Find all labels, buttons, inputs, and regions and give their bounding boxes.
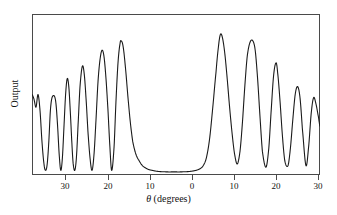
x-tick-label: 20: [264, 181, 288, 191]
x-tick-label: 30: [53, 181, 77, 191]
x-tick-label: 30: [306, 181, 330, 191]
x-tick-mark: [318, 175, 319, 180]
x-tick-mark: [234, 175, 235, 180]
x-tick-label: 0: [180, 181, 204, 191]
x-tick-mark: [192, 175, 193, 180]
x-tick-mark: [65, 175, 66, 180]
output-curve-plot: [32, 14, 320, 175]
x-tick-mark: [150, 175, 151, 180]
x-tick-label: 10: [138, 181, 162, 191]
x-tick-label: 20: [96, 181, 120, 191]
output-curve-line: [32, 34, 320, 172]
x-tick-mark: [276, 175, 277, 180]
figure-container: 3020100102030 θ (degrees) Output: [0, 0, 337, 215]
x-tick-mark: [108, 175, 109, 180]
x-tick-label: 10: [222, 181, 246, 191]
x-axis-title-units: (degrees): [151, 193, 191, 204]
x-axis-title: θ (degrees): [0, 193, 337, 204]
y-axis-title: Output: [9, 64, 20, 124]
